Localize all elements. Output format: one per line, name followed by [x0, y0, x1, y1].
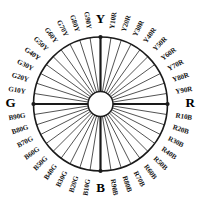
hue-label-g80y: G80Y: [68, 14, 81, 33]
hue-label-r10b: R10B: [175, 112, 193, 123]
axis-endpoint-marker: [31, 102, 35, 106]
hue-label-g70y: G70Y: [55, 19, 70, 38]
hue-label-y20r: Y20R: [120, 13, 133, 33]
hue-label-b30g: B30G: [54, 169, 69, 188]
ncs-hue-circle-figure: Y10RY20RY30RY40RY50RY60RY70RY80RY90RR10B…: [0, 0, 201, 207]
hue-label-b80g: B80G: [11, 123, 30, 136]
hue-spoke-line: [90, 38, 99, 92]
hue-label-g30y: G30Y: [16, 58, 35, 73]
cardinal-label-r: R: [186, 95, 196, 110]
hue-label-r20b: R20B: [172, 123, 191, 136]
hue-spoke-line: [80, 116, 97, 168]
hue-label-y70r: Y70R: [166, 57, 186, 72]
hue-spoke-line: [112, 108, 164, 125]
cardinal-label-y: Y: [96, 11, 106, 26]
hue-spoke-line: [80, 40, 97, 92]
hue-spoke-line: [113, 94, 167, 103]
hue-spoke-line: [112, 83, 164, 100]
hue-spoke-line: [102, 38, 111, 92]
hue-spoke-line: [113, 106, 167, 115]
hue-label-g90y: G90Y: [82, 11, 93, 29]
cardinal-label-b: B: [96, 180, 105, 195]
hue-spoke-line: [34, 106, 88, 115]
cardinal-label-g: G: [5, 95, 15, 110]
hue-label-g20y: G20Y: [11, 71, 30, 84]
hue-label-y80r: Y80R: [171, 71, 191, 84]
hue-spoke-line: [104, 40, 121, 92]
center-hub-circle: [88, 92, 113, 117]
hue-label-r70b: R70B: [132, 170, 147, 189]
hue-label-r30b: R30B: [167, 135, 186, 150]
hue-spoke-line: [104, 116, 121, 168]
hue-label-y10r: Y10R: [108, 11, 119, 30]
hue-label-r60b: R60B: [142, 163, 158, 181]
hue-spoke-line: [37, 83, 89, 100]
hue-spoke-line: [37, 108, 89, 125]
hue-label-g40y: G40Y: [23, 46, 42, 63]
hue-label-r90b: R90B: [109, 178, 120, 196]
axis-endpoint-marker: [98, 169, 102, 173]
hue-label-b20g: B20G: [68, 174, 81, 193]
hue-spoke-line: [90, 116, 99, 170]
hue-label-b10g: B10G: [82, 178, 93, 197]
hue-spoke-line: [102, 116, 111, 170]
hue-circle-diagram: Y10RY20RY30RY40RY50RY60RY70RY80RY90RR10B…: [0, 0, 201, 207]
axis-endpoint-marker: [165, 102, 169, 106]
hue-spoke-line: [34, 94, 88, 103]
hue-label-b90g: B90G: [8, 111, 27, 122]
axis-endpoint-marker: [98, 35, 102, 39]
hue-label-r80b: R80B: [121, 175, 134, 194]
